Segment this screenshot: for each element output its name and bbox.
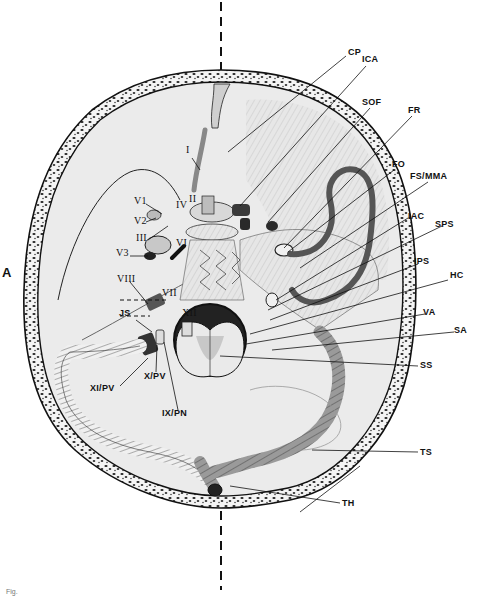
skull-base-illustration <box>0 0 480 596</box>
label-sof: SOF <box>362 98 381 107</box>
label-nerve-xi-pv: XI/PV <box>90 384 115 393</box>
label-nerve-v2: V2 <box>134 216 147 226</box>
label-nerve-vi: VI <box>176 238 187 248</box>
label-iac: IAC <box>408 212 424 221</box>
label-nerve-iv: IV <box>176 200 187 210</box>
label-sps: SPS <box>435 220 454 229</box>
label-ips: IPS <box>414 257 429 266</box>
label-fs-mma: FS/MMA <box>410 172 447 181</box>
panel-label: A <box>2 265 11 280</box>
label-sa: SA <box>454 326 467 335</box>
label-nerve-iii: III <box>136 233 147 243</box>
figure-caption: Fig. <box>6 588 18 595</box>
label-ss: SS <box>420 361 433 370</box>
label-nerve-i: I <box>186 145 190 155</box>
label-nerve-ii: II <box>189 194 196 204</box>
label-nerve-viii: VIII <box>117 274 135 284</box>
label-cp: CP <box>348 48 361 57</box>
label-va: VA <box>423 308 435 317</box>
label-ts: TS <box>420 448 432 457</box>
label-fo: FO <box>392 160 405 169</box>
label-nerve-x-pv: X/PV <box>144 372 166 381</box>
label-ica: ICA <box>362 55 378 64</box>
label-hc: HC <box>450 271 464 280</box>
label-fr: FR <box>408 106 421 115</box>
label-nerve-v3: V3 <box>116 248 129 258</box>
label-nerve-ix-pn: IX/PN <box>162 409 187 418</box>
torcular-opening <box>208 484 222 496</box>
label-js: JS <box>119 309 131 318</box>
label-th: TH <box>342 499 355 508</box>
label-nerve-v1: V1 <box>134 196 147 206</box>
label-nerve-vii: VII <box>162 288 177 298</box>
label-nerve-xii: XII <box>182 308 197 318</box>
